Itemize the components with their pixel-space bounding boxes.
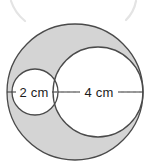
- large-diameter-label: 4 cm: [85, 85, 114, 100]
- figure-container: 2 cm 4 cm: [0, 0, 150, 168]
- small-diameter-label: 2 cm: [20, 85, 49, 100]
- geometry-diagram: 2 cm 4 cm: [0, 0, 150, 168]
